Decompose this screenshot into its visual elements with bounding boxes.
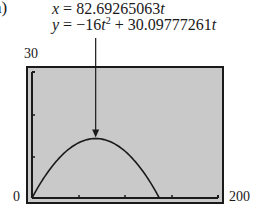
origin-label: 0 — [13, 190, 20, 204]
trajectory-plot — [0, 0, 260, 206]
x-max-label: 200 — [229, 190, 250, 204]
plot-frame — [27, 67, 223, 203]
y-max-label: 30 — [24, 47, 38, 61]
